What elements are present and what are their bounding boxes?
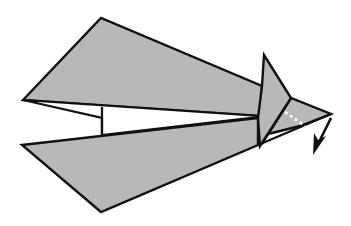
fold-down-arrow (313, 118, 331, 155)
lower-wing (22, 118, 258, 212)
arrow-head-icon (313, 133, 326, 155)
upper-wing (23, 18, 262, 116)
origami-diagram: Fold the tip down along the dashed line. (0, 0, 351, 226)
diagram-canvas (0, 0, 351, 226)
